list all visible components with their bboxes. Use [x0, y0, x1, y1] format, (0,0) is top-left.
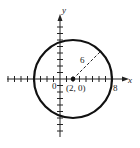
x-intercept-label: 8	[113, 83, 118, 93]
origin-label: 0	[52, 81, 57, 91]
center-label: (2, 0)	[66, 83, 86, 93]
circle-diagram: y x 0 (2, 0) 6 8	[0, 0, 140, 148]
radius-label: 6	[80, 55, 85, 65]
y-axis-label: y	[61, 5, 66, 15]
radius-line	[73, 51, 101, 79]
center-point	[71, 77, 76, 82]
y-axis-arrow-icon	[58, 14, 63, 21]
x-axis-label: x	[127, 75, 132, 85]
